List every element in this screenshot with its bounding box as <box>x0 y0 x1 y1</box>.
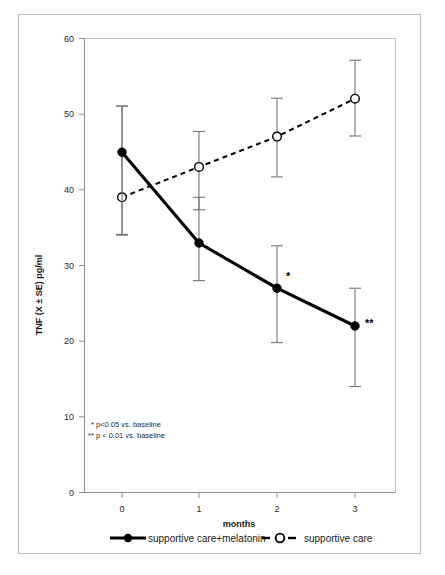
y-axis-title: TNF (X ± SE) pg/ml <box>34 255 44 335</box>
data-point-1 <box>195 239 203 247</box>
legend-marker-open-circle <box>276 534 285 543</box>
data-point-1 <box>195 163 204 172</box>
significance-marker-month-2: * <box>286 270 291 282</box>
figure-root: 60 50 40 30 20 10 0 TNF (X ± SE) pg/ml 0… <box>0 0 445 575</box>
data-point-2 <box>273 132 282 141</box>
y-tick-label-30: 30 <box>64 261 74 271</box>
legend-label-supportive-care: supportive care <box>304 533 373 544</box>
legend-item-supportive-care-melatonin[interactable]: supportive care+melatonin <box>110 533 266 544</box>
note-p001: ** p < 0.01 vs. baseline <box>88 431 165 440</box>
x-tick-label-0: 0 <box>119 504 124 514</box>
data-point-3 <box>351 322 359 330</box>
legend-item-supportive-care[interactable]: supportive care <box>262 533 373 544</box>
y-axis-ticks <box>79 39 85 493</box>
chart-canvas: 60 50 40 30 20 10 0 TNF (X ± SE) pg/ml 0… <box>0 0 445 575</box>
data-point-3 <box>351 94 360 103</box>
y-tick-label-50: 50 <box>64 109 74 119</box>
data-point-2 <box>273 284 281 292</box>
y-tick-label-20: 20 <box>64 336 74 346</box>
x-axis-title: months <box>223 519 256 529</box>
y-tick-label-10: 10 <box>64 412 74 422</box>
y-tick-label-60: 60 <box>64 34 74 44</box>
x-tick-label-3: 3 <box>352 504 357 514</box>
significance-marker-month-3: ** <box>365 317 374 329</box>
data-point-0 <box>118 148 126 156</box>
y-tick-label-0: 0 <box>69 488 74 498</box>
x-axis-ticks <box>122 493 355 499</box>
note-p005: * p<0.05 vs. baseline <box>91 420 161 429</box>
chart-legend: supportive care+melatonin supportive car… <box>110 533 373 544</box>
legend-label-supportive-care-melatonin: supportive care+melatonin <box>148 533 266 544</box>
legend-marker-filled-circle <box>124 534 132 542</box>
x-tick-label-1: 1 <box>196 504 201 514</box>
y-tick-label-40: 40 <box>64 185 74 195</box>
x-tick-label-2: 2 <box>274 504 279 514</box>
